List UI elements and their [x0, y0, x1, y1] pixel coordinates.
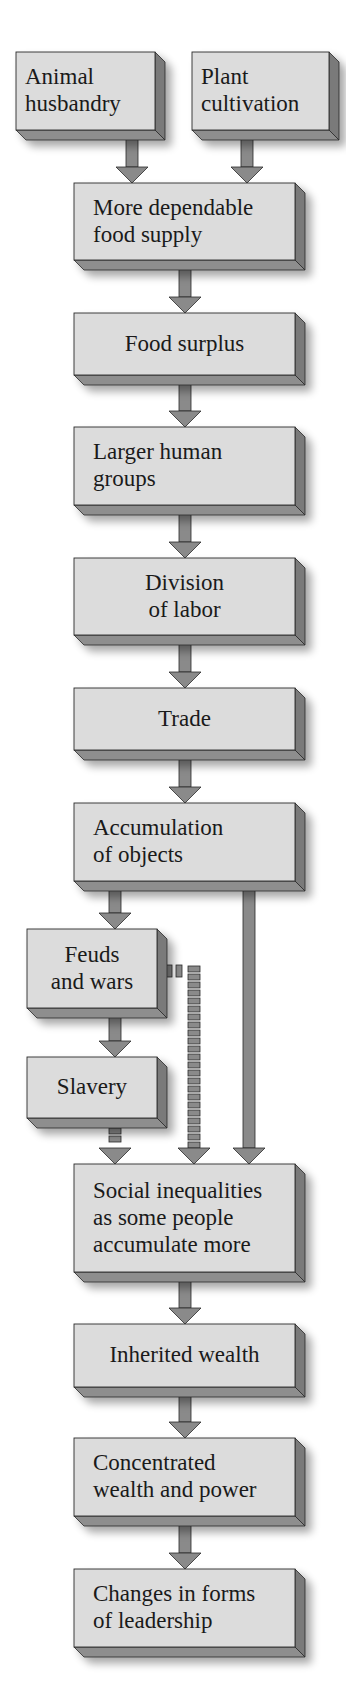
node-label-plant: Plant cultivation	[201, 63, 329, 117]
node-label-groups: Larger human groups	[93, 438, 295, 492]
arrow-feuds-to-inequalities	[166, 965, 210, 1164]
node-bottom-face	[74, 505, 305, 515]
node-side-face	[157, 1057, 167, 1128]
node-label-division: Division of labor	[74, 569, 295, 623]
node-side-face	[295, 1438, 305, 1526]
node-side-face	[295, 1569, 305, 1657]
node-bottom-face	[74, 260, 305, 270]
node-side-face	[295, 1324, 305, 1397]
node-bottom-face	[74, 1516, 305, 1526]
node-side-face	[295, 427, 305, 515]
node-bottom-face	[74, 1647, 305, 1657]
node-label-inequalities: Social inequalities as some people accum…	[93, 1177, 295, 1258]
arrow-accumulation-to-inequalities	[233, 880, 265, 1164]
node-label-food-supply: More dependable food supply	[93, 194, 295, 248]
node-label-accumulation: Accumulation of objects	[93, 814, 295, 868]
node-label-concentrated: Concentrated wealth and power	[93, 1449, 295, 1503]
node-bottom-face	[74, 1387, 305, 1397]
node-side-face	[295, 688, 305, 760]
node-label-slavery: Slavery	[27, 1073, 157, 1100]
node-label-leadership: Changes in forms of leadership	[93, 1580, 295, 1634]
node-bottom-face	[74, 635, 305, 645]
node-side-face	[295, 313, 305, 385]
node-side-face	[155, 52, 165, 140]
node-side-face	[295, 803, 305, 891]
node-bottom-face	[27, 1118, 167, 1128]
node-side-face	[295, 1164, 305, 1282]
node-side-face	[157, 929, 167, 1018]
node-bottom-face	[16, 130, 165, 140]
node-side-face	[329, 52, 339, 140]
node-label-feuds: Feuds and wars	[27, 941, 157, 995]
node-bottom-face	[74, 375, 305, 385]
node-bottom-face	[192, 130, 339, 140]
node-label-inherited: Inherited wealth	[74, 1341, 295, 1368]
node-bottom-face	[74, 881, 305, 891]
node-label-trade: Trade	[74, 705, 295, 732]
node-label-animal: Animal husbandry	[25, 63, 155, 117]
node-side-face	[295, 558, 305, 645]
node-side-face	[295, 183, 305, 270]
node-label-surplus: Food surplus	[74, 330, 295, 357]
node-bottom-face	[27, 1008, 167, 1018]
node-bottom-face	[74, 1272, 305, 1282]
node-bottom-face	[74, 750, 305, 760]
